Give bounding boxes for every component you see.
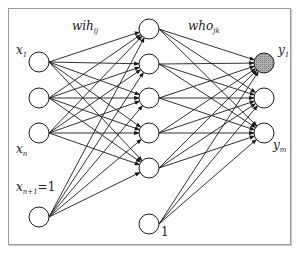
neural-network-diagram: wihij whojk x1xnxn+1=11y1ym <box>0 0 300 254</box>
connection-edge <box>49 62 139 64</box>
input-label: xn <box>16 142 28 158</box>
input-node <box>29 88 49 108</box>
input-label: x1 <box>16 43 27 59</box>
input-node <box>29 207 49 227</box>
input-node <box>29 52 49 72</box>
output-label: y1 <box>277 43 289 59</box>
connection-edge <box>159 64 254 95</box>
bias-input-label: xn+1=1 <box>16 180 55 196</box>
connection-edge <box>49 133 140 165</box>
connection-edge <box>49 72 143 217</box>
connection-edge <box>159 136 255 168</box>
connection-edge <box>49 32 139 62</box>
connection-edge <box>159 63 254 64</box>
hidden-node <box>139 158 159 178</box>
input-node <box>29 123 49 143</box>
connection-edge <box>159 104 256 168</box>
weight-label-who: whojk <box>188 19 220 35</box>
connection-edge <box>159 71 259 224</box>
output-node <box>254 88 274 108</box>
nodes <box>29 19 274 234</box>
weight-label-wih: wihij <box>72 19 99 35</box>
hidden-node <box>139 88 159 108</box>
output-label: ym <box>272 138 287 154</box>
connection-edge <box>49 35 141 98</box>
connection-edge <box>159 29 254 60</box>
hidden-node <box>139 19 159 39</box>
output-node-highlighted <box>254 53 274 73</box>
connection-edge <box>159 69 256 133</box>
hidden-node <box>139 54 159 74</box>
connection-edge <box>159 29 256 93</box>
hidden-bias-label: 1 <box>161 225 169 239</box>
output-node <box>254 123 274 143</box>
connection-edge <box>159 64 256 128</box>
hidden-node <box>139 123 159 143</box>
hidden-bias-node <box>139 214 159 234</box>
